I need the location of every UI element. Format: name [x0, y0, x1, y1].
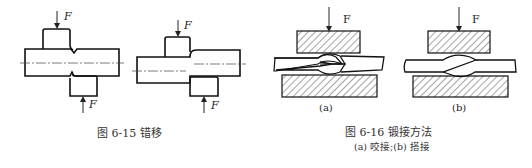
upper-die [297, 31, 360, 53]
figure-caption-6-16: 图 6-16 锻接方法 [345, 123, 432, 139]
fig615-left-drawing [20, 11, 124, 113]
force-label-top: F [184, 19, 192, 32]
force-label-a: F [343, 13, 351, 26]
diagram-canvas [0, 0, 532, 168]
upper-die [165, 37, 190, 57]
fig616b-drawing [404, 7, 516, 97]
lower-die [70, 75, 97, 96]
force-label-b: F [472, 13, 480, 26]
panel-label-a: (a) [319, 102, 333, 113]
left-bar [274, 55, 342, 71]
upper-die [428, 31, 490, 53]
figure-subcaption-6-16: (a) 咬接;(b) 搭接 [354, 139, 430, 153]
workpiece-offset-bar [137, 50, 240, 83]
workpiece-bar [25, 49, 119, 76]
force-label-top: F [64, 10, 72, 23]
right-bar [341, 56, 384, 72]
lower-die [190, 77, 218, 96]
left-bar [404, 55, 476, 72]
upper-die [43, 29, 73, 50]
force-label-bottom: F [89, 98, 97, 111]
force-label-bottom: F [211, 99, 219, 112]
panel-label-b: (b) [452, 102, 466, 113]
lower-die [413, 76, 508, 97]
fig616a-drawing [274, 7, 384, 97]
lower-die [282, 75, 377, 97]
figure-caption-6-15: 图 6-15 错移 [97, 124, 162, 140]
fig615-right-drawing [132, 20, 246, 113]
